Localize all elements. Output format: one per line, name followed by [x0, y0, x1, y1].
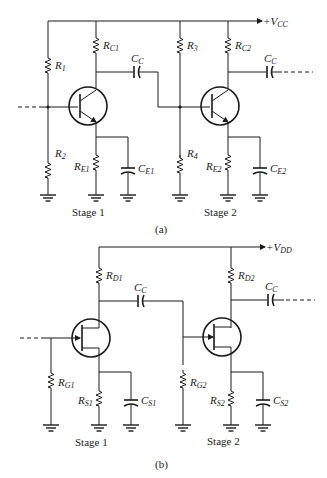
resistor-rd2-icon — [228, 265, 234, 285]
ground-icon — [40, 195, 56, 201]
r2-label: R2 — [54, 147, 66, 161]
ground-icon — [91, 425, 107, 431]
r1-label: R1 — [54, 59, 66, 73]
resistor-rc1-icon — [93, 35, 99, 55]
resistor-rc2-icon — [225, 35, 231, 55]
resistor-r4-icon — [177, 155, 183, 175]
jfet-q1-icon — [72, 319, 110, 372]
rs1-label: RS1 — [77, 394, 93, 408]
ce1-label: CE1 — [138, 162, 154, 176]
ground-icon — [175, 425, 191, 431]
stage-2-label: Stage 2 — [207, 435, 240, 447]
resistor-r1-icon — [45, 55, 51, 75]
ground-icon — [120, 195, 136, 201]
re1-label: RE1 — [73, 160, 90, 174]
rd1-label: RD1 — [105, 269, 123, 283]
cs1-label: CS1 — [141, 394, 156, 408]
ground-icon — [88, 195, 104, 201]
circuit-a: +VCC R1 R2 RC1 CC — [18, 15, 313, 236]
ground-icon — [220, 195, 236, 201]
resistor-re2-icon — [225, 152, 231, 172]
cc1-label: CC — [134, 281, 147, 295]
rc2-label: RC2 — [234, 39, 251, 53]
cs2-label: CS2 — [273, 394, 288, 408]
stage-2-label: Stage 2 — [204, 206, 237, 218]
stage-1-label: Stage 1 — [72, 206, 105, 218]
npn-transistor-q1-icon — [69, 87, 107, 137]
cc1-label: CC — [131, 52, 144, 66]
circuit-b: +VDD RG1 RD1 CC — [20, 241, 315, 471]
r3-label: R3 — [186, 39, 198, 53]
ground-icon — [252, 195, 268, 201]
rg2-label: RG2 — [189, 376, 207, 390]
cc2-label: CC — [265, 280, 278, 294]
ground-icon — [123, 425, 139, 431]
resistor-r2-icon — [45, 160, 51, 180]
caption-b: (b) — [155, 458, 168, 471]
npn-transistor-q2-icon — [201, 87, 239, 137]
resistor-rs1-icon — [96, 388, 102, 408]
re2-label: RE2 — [205, 160, 222, 174]
rc1-label: RC1 — [102, 39, 119, 53]
rs2-label: RS2 — [209, 394, 225, 408]
resistor-rg2-icon — [180, 370, 186, 390]
vdd-label: +VDD — [266, 241, 292, 255]
resistor-re1-icon — [93, 152, 99, 172]
resistor-rs2-icon — [228, 388, 234, 408]
vcc-label: +VCC — [263, 15, 289, 29]
jfet-q2-icon — [203, 318, 241, 372]
two-stage-amplifier-schematics: +VCC R1 R2 RC1 CC — [0, 0, 327, 478]
resistor-rg1-icon — [48, 370, 54, 390]
resistor-r3-icon — [177, 35, 183, 55]
ground-icon — [255, 425, 271, 431]
stage-1-label: Stage 1 — [75, 436, 108, 448]
rg1-label: RG1 — [57, 376, 75, 390]
cc2-label: CC — [264, 52, 277, 66]
rd2-label: RD2 — [237, 269, 255, 283]
caption-a: (a) — [155, 223, 168, 236]
ce2-label: CE2 — [270, 162, 286, 176]
ground-icon — [223, 425, 239, 431]
ground-icon — [43, 425, 59, 431]
ground-icon — [172, 195, 188, 201]
resistor-rd1-icon — [96, 265, 102, 285]
r4-label: R4 — [186, 147, 198, 161]
